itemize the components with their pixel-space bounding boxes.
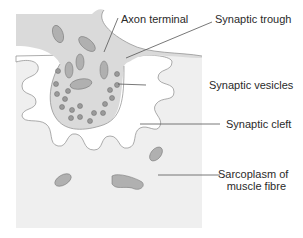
label-synaptic-vesicles: Synaptic vesicles [209,79,293,91]
label-sarcoplasm: Sarcoplasm of muscle fibre [218,168,286,192]
label-synaptic-trough: Synaptic trough [215,13,291,25]
label-sarcoplasm-line1: Sarcoplasm of [218,168,286,180]
label-axon-terminal: Axon terminal [121,13,188,25]
label-sarcoplasm-line2: muscle fibre [218,180,286,192]
label-synaptic-cleft: Synaptic cleft [226,118,291,130]
